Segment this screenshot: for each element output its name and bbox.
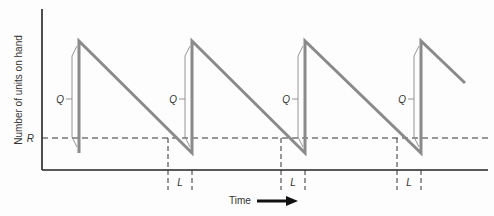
q-brackets [66, 46, 419, 147]
r-label: R [27, 133, 34, 144]
time-arrow-icon [257, 196, 298, 206]
l-label: L [406, 177, 412, 188]
q-label: Q [282, 94, 290, 105]
inventory-sawtooth-diagram: Number of units on hand R Q Q Q Q L L L … [0, 0, 494, 216]
q-label: Q [398, 94, 406, 105]
y-axis-label: Number of units on hand [13, 35, 24, 145]
q-label: Q [169, 94, 177, 105]
inventory-level-line [79, 41, 465, 153]
x-axis-label: Time [229, 195, 251, 206]
l-label: L [177, 177, 183, 188]
l-label: L [290, 177, 296, 188]
q-label: Q [56, 94, 64, 105]
